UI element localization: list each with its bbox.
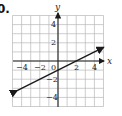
y-tick-label: 2 — [51, 38, 56, 47]
x-tick-label: 0 — [51, 63, 56, 72]
y-tick-label: 4 — [51, 20, 56, 29]
y-axis-label: y — [54, 2, 61, 12]
x-axis-label: x — [107, 56, 112, 66]
y-tick-label: −4 — [46, 93, 58, 102]
x-tick-label: −2 — [34, 63, 46, 72]
y-tick-label: −2 — [46, 75, 58, 84]
x-tick-label: −4 — [16, 63, 28, 72]
x-tick-label: 4 — [92, 63, 97, 72]
coordinate-graph: x y −4 −2 0 2 4 4 2 −2 −4 — [0, 0, 122, 116]
x-tick-label: 2 — [74, 63, 79, 72]
plotted-line — [17, 47, 103, 90]
